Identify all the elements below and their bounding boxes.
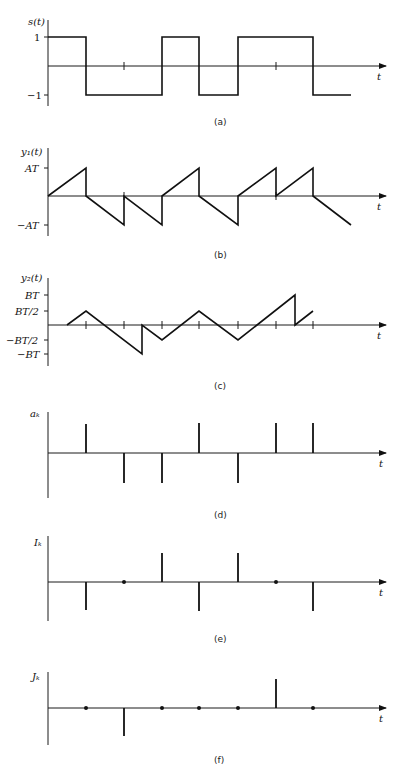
caption-b: (b) — [214, 250, 227, 260]
tick-minus1: −1 — [27, 90, 42, 101]
caption-c: (c) — [214, 381, 226, 391]
ylabel-c: y₂(t) — [20, 272, 43, 283]
caption-e: (e) — [214, 634, 227, 644]
tick-AT: AT — [24, 163, 40, 174]
caption-d: (d) — [214, 510, 227, 520]
panel-f: Jₖ t (f) — [30, 671, 386, 765]
xlabel-f: t — [379, 713, 384, 724]
xlabel-b: t — [377, 201, 382, 212]
panel-d: aₖ t (d) — [30, 408, 386, 520]
tick-BT: BT — [24, 290, 40, 301]
tick-minus-AT: −AT — [17, 220, 40, 231]
panel-a: s(t) 1 −1 t (a) — [27, 16, 386, 127]
tick-minus-BT-half: −BT/2 — [6, 335, 38, 346]
panel-e: Iₖ t (e) — [33, 536, 386, 644]
ylabel-b: y₁(t) — [20, 146, 43, 157]
figure: s(t) 1 −1 t (a) y₁(t) AT −AT t (b) — [0, 0, 408, 774]
ylabel-e: Iₖ — [33, 537, 42, 548]
panel-c: y₂(t) BT BT/2 −BT/2 −BT t (c) — [6, 272, 386, 391]
panel-b: y₁(t) AT −AT t (b) — [17, 146, 386, 260]
caption-f: (f) — [214, 755, 224, 765]
ylabel-a: s(t) — [28, 16, 45, 27]
tick-minus-BT: −BT — [17, 349, 41, 360]
xlabel-c: t — [377, 330, 382, 341]
tick-BT-half: BT/2 — [14, 306, 39, 317]
caption-a: (a) — [214, 117, 227, 127]
ylabel-f: Jₖ — [30, 671, 40, 682]
tick-1: 1 — [34, 32, 40, 43]
xlabel-d: t — [379, 458, 384, 469]
xlabel-a: t — [377, 71, 382, 82]
ylabel-d: aₖ — [30, 408, 40, 419]
xlabel-e: t — [379, 587, 384, 598]
